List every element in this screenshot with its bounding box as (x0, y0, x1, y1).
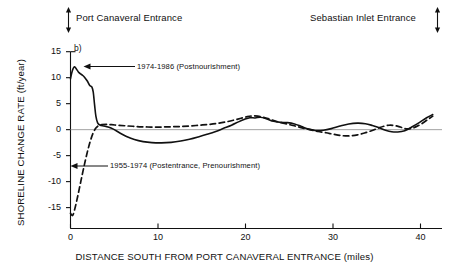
data-series-group (71, 67, 433, 216)
chart-canvas (0, 0, 449, 270)
annotation-leaders (71, 63, 136, 169)
port-canaveral-arrow-icon (66, 7, 71, 33)
series-line-1 (71, 67, 433, 143)
sebastian-inlet-arrow-icon (435, 7, 440, 33)
figure-panel: Port Canaveral Entrance Sebastian Inlet … (0, 0, 449, 270)
series-line-2 (71, 116, 433, 216)
top-arrow-markers (66, 7, 440, 33)
axes (66, 52, 442, 229)
